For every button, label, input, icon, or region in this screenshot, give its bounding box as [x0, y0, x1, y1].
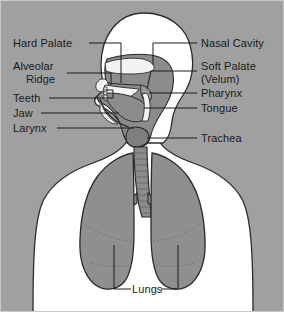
label-jaw-text: Jaw	[13, 107, 33, 119]
larynx	[126, 127, 149, 147]
label-alveolar-ridge-text: Alveolar	[13, 60, 55, 73]
label-tongue: Tongue	[201, 102, 238, 115]
label-larynx: Larynx	[13, 122, 47, 135]
label-alveolar-ridge-text2: Ridge	[13, 73, 55, 86]
label-hard-palate-text: Hard Palate	[13, 37, 72, 49]
anatomy-figure: Hard Palate Alveolar Ridge Teeth Jaw Lar…	[0, 0, 284, 312]
label-lungs-text: Lungs	[132, 283, 162, 295]
label-pharynx: Pharynx	[201, 87, 242, 100]
label-trachea: Trachea	[201, 132, 242, 145]
label-tongue-text: Tongue	[201, 102, 238, 114]
label-nasal-cavity: Nasal Cavity	[201, 37, 264, 50]
label-jaw: Jaw	[13, 107, 33, 120]
label-soft-palate-text: Soft Palate	[201, 60, 256, 73]
label-larynx-text: Larynx	[13, 122, 47, 134]
label-teeth-text: Teeth	[13, 92, 40, 104]
label-soft-palate: Soft Palate (Velum)	[201, 60, 256, 85]
label-nasal-cavity-text: Nasal Cavity	[201, 37, 264, 49]
label-lungs: Lungs	[132, 283, 162, 296]
label-hard-palate: Hard Palate	[13, 37, 72, 50]
label-alveolar-ridge: Alveolar Ridge	[13, 60, 55, 85]
nasal-cavity-airway	[105, 58, 154, 74]
label-trachea-text: Trachea	[201, 132, 242, 144]
label-soft-palate-text2: (Velum)	[201, 73, 256, 86]
label-teeth: Teeth	[13, 92, 40, 105]
label-pharynx-text: Pharynx	[201, 87, 242, 99]
